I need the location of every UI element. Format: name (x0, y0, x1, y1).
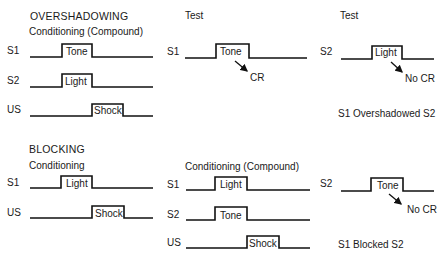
os-test1-response: CR (250, 72, 264, 84)
bl-us-trace (30, 206, 153, 218)
blc-heading: Conditioning (Compound) (185, 161, 299, 173)
blc-s1-trace (186, 177, 310, 190)
blc-s2-trace (186, 207, 310, 220)
os-s2-stimulus: Light (65, 76, 87, 88)
bl-test-stimulus: Tone (377, 180, 399, 192)
os-test1-stimulus: Tone (220, 46, 242, 58)
blc-s1-stimulus: Light (220, 179, 242, 191)
blocking-title: BLOCKING (29, 143, 85, 155)
os-test1-trace (185, 44, 307, 58)
os-s1-stimulus: Tone (66, 46, 88, 58)
os-us-label: US (7, 104, 21, 116)
os-conditioning-heading: Conditioning (Compound) (29, 26, 143, 38)
os-test2-label: S2 (320, 46, 332, 58)
bl-s1-trace (30, 176, 153, 188)
os-test2-heading: Test (340, 10, 358, 22)
os-us-stimulus: Shock (94, 105, 122, 117)
bl-test-label: S2 (320, 178, 332, 190)
bl-test-response: No CR (407, 204, 437, 216)
blc-us-stimulus: Shock (249, 238, 277, 250)
bl-us-stimulus: Shock (95, 208, 123, 220)
os-test1-label: S1 (167, 46, 179, 58)
bl-conclusion: S1 Blocked S2 (338, 239, 404, 251)
os-s1-trace (30, 44, 153, 57)
bl-s1-stimulus: Light (66, 178, 88, 190)
os-s1-label: S1 (7, 45, 19, 57)
bl-conditioning-heading: Conditioning (29, 160, 85, 172)
os-test2-response: No CR (405, 73, 435, 85)
os-us-trace (30, 104, 153, 116)
blc-s2-stimulus: Tone (220, 210, 242, 222)
overshadowing-title: OVERSHADOWING (30, 10, 128, 22)
blc-us-trace (186, 236, 310, 248)
blc-s1-label: S1 (167, 179, 179, 191)
bl-us-label: US (7, 207, 21, 219)
os-test2-stimulus: Light (375, 47, 397, 59)
os-conclusion: S1 Overshadowed S2 (338, 108, 435, 120)
bl-s1-label: S1 (7, 177, 19, 189)
blc-us-label: US (167, 237, 181, 249)
os-s2-trace (30, 74, 153, 87)
os-test1-heading: Test (185, 10, 203, 22)
blc-s2-label: S2 (167, 209, 179, 221)
os-s2-label: S2 (7, 75, 19, 87)
